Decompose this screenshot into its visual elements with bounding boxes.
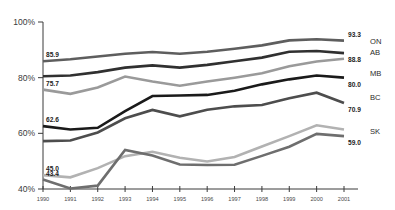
x-tick-label: 1998 — [256, 196, 268, 202]
start-value-labels: 85.975.762.645.043.4 — [46, 51, 59, 176]
end-value-labels: 93.388.880.070.959.0 — [348, 31, 361, 146]
series-label-ab: AB — [370, 48, 380, 57]
start-value-label-on: 85.9 — [46, 51, 59, 58]
series-label-sk: SK — [370, 127, 380, 136]
series-lines — [43, 39, 344, 188]
series-line-nb — [43, 125, 344, 177]
start-value-label-ns: 43.4 — [46, 170, 59, 177]
x-tick-label: 1996 — [201, 196, 213, 202]
x-tick-label: 1992 — [92, 196, 104, 202]
series-line-ns — [43, 134, 344, 189]
y-axis: 40%60%80%100% — [13, 17, 43, 194]
end-value-label-on: 93.3 — [348, 31, 361, 38]
end-value-label-ab: 88.8 — [348, 56, 361, 63]
end-value-label-sk: 70.9 — [348, 106, 361, 113]
x-tick-label: 1999 — [283, 196, 295, 202]
y-tick-label: 100% — [13, 17, 35, 27]
x-tick-label: 1990 — [37, 196, 49, 202]
x-tick-label: 1991 — [64, 196, 76, 202]
y-tick-label: 40% — [18, 184, 35, 194]
end-value-label-bc: 80.0 — [348, 81, 361, 88]
line-chart: 40%60%80%100% 19901991199219931994199519… — [0, 0, 395, 210]
x-tick-label: 1993 — [119, 196, 131, 202]
y-tick-label: 80% — [18, 73, 35, 83]
series-line-sk — [43, 93, 344, 141]
start-value-label-mb: 75.7 — [46, 80, 59, 87]
end-value-label-ns: 59.0 — [348, 139, 361, 146]
x-tick-label: 1995 — [174, 196, 186, 202]
x-tick-label: 1997 — [228, 196, 240, 202]
chart-svg: 40%60%80%100% 19901991199219931994199519… — [0, 0, 395, 210]
series-label-on: ON — [370, 37, 381, 46]
x-axis: 1990199119921993199419951996199719981999… — [37, 186, 358, 202]
start-value-label-bc: 62.6 — [46, 116, 59, 123]
series-label-bc: BC — [370, 93, 381, 102]
x-tick-label: 1994 — [146, 196, 158, 202]
x-tick-label: 2000 — [310, 196, 322, 202]
x-tick-label: 2001 — [338, 196, 350, 202]
series-line-mb — [43, 59, 344, 94]
series-name-labels: ONABMBBCSK — [370, 37, 381, 136]
series-label-mb: MB — [370, 69, 381, 78]
y-tick-label: 60% — [18, 128, 35, 138]
